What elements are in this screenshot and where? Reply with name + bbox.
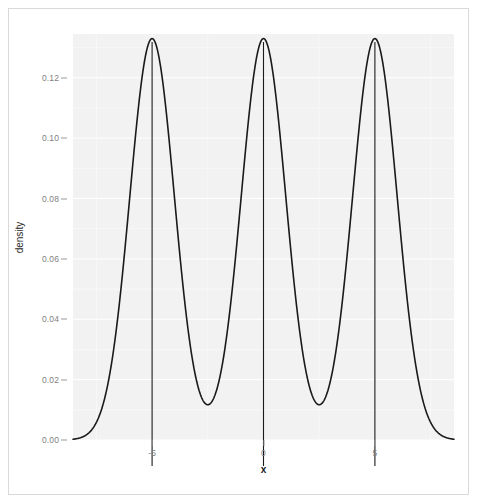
x-tick-label: 5 bbox=[372, 448, 377, 458]
y-tick-mark bbox=[61, 440, 67, 441]
y-tick-label: 0.06 bbox=[42, 254, 59, 264]
x-axis: -505 bbox=[73, 440, 454, 466]
y-axis: 0.000.020.040.060.080.100.12 bbox=[9, 34, 73, 440]
y-tick-mark bbox=[61, 138, 67, 139]
y-tick-label: 0.00 bbox=[42, 435, 59, 445]
density-curve-layer bbox=[73, 34, 454, 466]
x-tick-label: 0 bbox=[261, 448, 266, 458]
x-tick-mark bbox=[374, 440, 375, 446]
y-tick-label: 0.08 bbox=[42, 194, 59, 204]
y-tick-mark bbox=[61, 77, 67, 78]
y-tick-mark bbox=[61, 319, 67, 320]
y-tick-label: 0.10 bbox=[42, 133, 59, 143]
plot-panel bbox=[73, 34, 454, 440]
y-tick-mark bbox=[61, 379, 67, 380]
y-tick-mark bbox=[61, 198, 67, 199]
x-tick-label: -5 bbox=[148, 448, 156, 458]
y-tick-label: 0.12 bbox=[42, 73, 59, 83]
y-tick-mark bbox=[61, 258, 67, 259]
x-axis-title: x bbox=[73, 464, 454, 475]
x-tick-mark bbox=[263, 440, 264, 446]
y-tick-label: 0.02 bbox=[42, 375, 59, 385]
figure-frame: density 0.000.020.040.060.080.100.12 -50… bbox=[8, 8, 469, 495]
y-tick-label: 0.04 bbox=[42, 314, 59, 324]
x-tick-mark bbox=[152, 440, 153, 446]
